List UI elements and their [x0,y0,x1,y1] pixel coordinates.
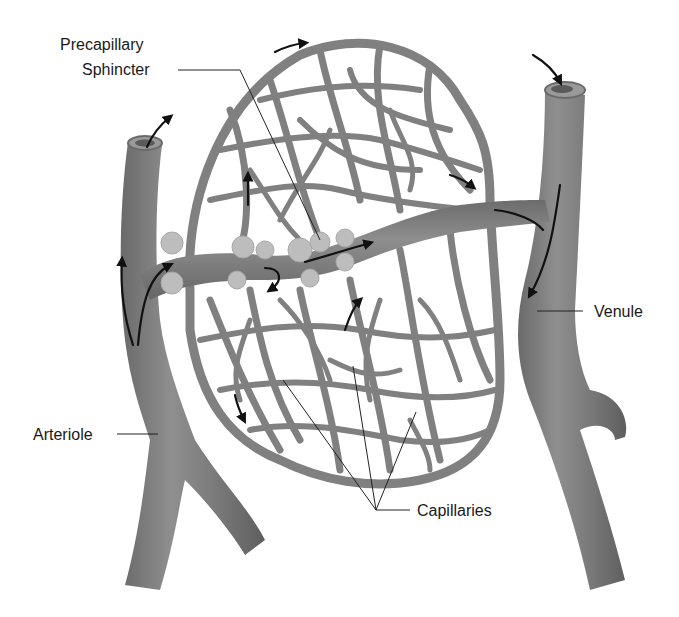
sphincter [256,241,274,259]
sphincter [161,232,183,254]
venule [518,82,626,590]
label-arteriole: Arteriole [33,426,93,443]
label-capillaries: Capillaries [417,502,492,519]
sphincter [310,232,330,252]
label-precapillary-line2: Sphincter [82,61,150,78]
sphincter [161,272,183,294]
flow-arrow-icon [533,55,560,82]
sphincter [336,229,354,247]
sphincter [288,238,312,262]
capillary-bed-diagram: Precapillary Sphincter Venule Arteriole … [0,0,679,617]
sphincter [228,271,246,289]
label-venule: Venule [594,303,643,320]
label-precapillary-line1: Precapillary [60,36,144,53]
sphincter [301,269,319,287]
sphincter [232,236,254,258]
sphincter [336,253,354,271]
